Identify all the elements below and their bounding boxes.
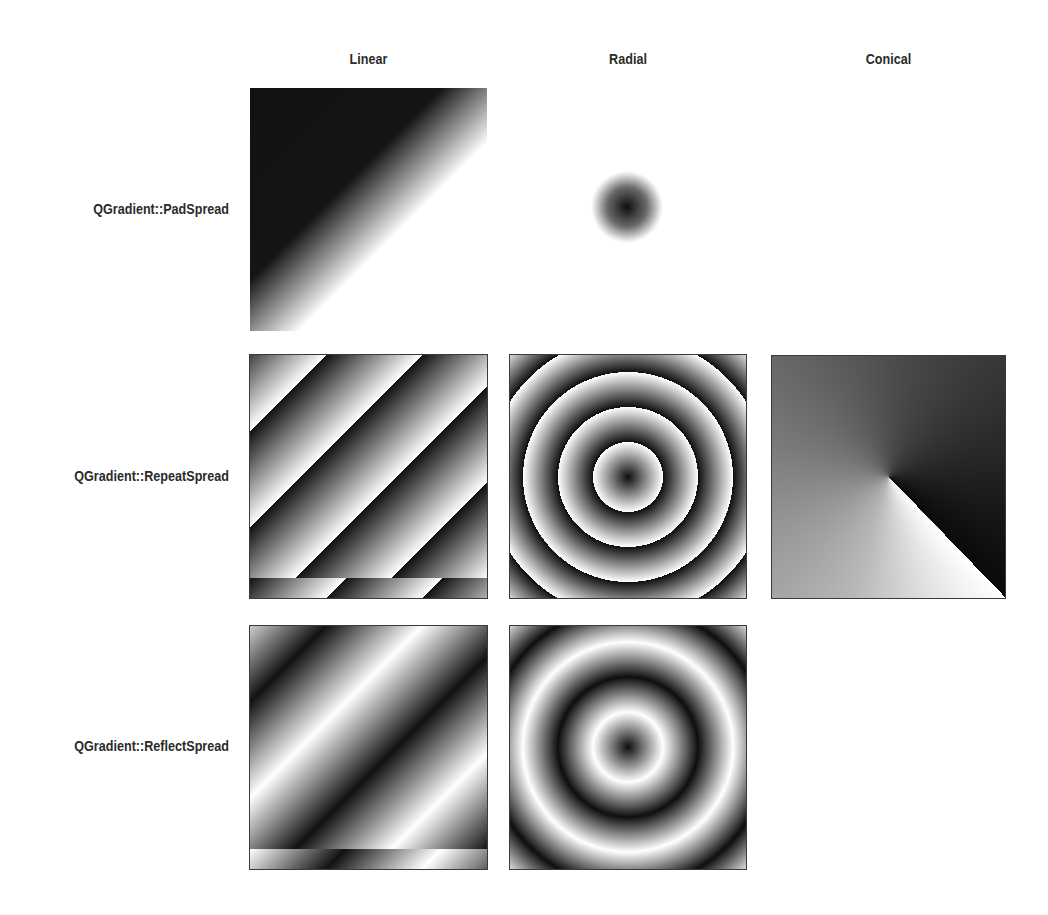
- column-header-conical: Conical: [791, 48, 987, 70]
- conical-reflect-empty-cell: [772, 626, 1005, 869]
- linear-repeat-gradient-panel: [250, 355, 487, 598]
- linear-pad-gradient-panel: [250, 88, 487, 331]
- radial-repeat-gradient-panel: [510, 355, 746, 598]
- row-label-repeat-spread: QGradient::RepeatSpread: [37, 465, 229, 487]
- conical-repeat-gradient-panel: [772, 356, 1005, 598]
- radial-pad-gradient-panel: [510, 88, 746, 331]
- radial-reflect-gradient-panel: [510, 626, 746, 869]
- conical-pad-empty-cell: [772, 88, 1005, 331]
- row-label-reflect-spread: QGradient::ReflectSpread: [37, 735, 229, 757]
- column-header-linear: Linear: [269, 48, 468, 70]
- column-header-radial: Radial: [529, 48, 727, 70]
- row-label-pad-spread: QGradient::PadSpread: [37, 198, 229, 220]
- linear-reflect-gradient-panel: [250, 626, 487, 869]
